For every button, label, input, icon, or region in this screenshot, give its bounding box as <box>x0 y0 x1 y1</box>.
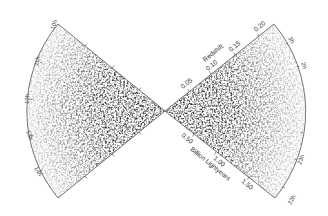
left-wedge <box>0 0 170 216</box>
redshift-wedge-chart: 0.05 0.10 0.15 0.20 Redshift 0.50 1.00 1… <box>0 0 328 216</box>
z-tick-2: 0.15 <box>227 39 242 53</box>
ra-right-1: 2h <box>300 61 308 69</box>
ra-right-0: 3h <box>287 36 296 45</box>
ra-left-2: 12h <box>24 94 30 104</box>
z-tick-0: 0.05 <box>179 76 194 90</box>
ra-right-4: 22h <box>287 194 297 206</box>
z-tick-3: 0.20 <box>252 19 267 33</box>
